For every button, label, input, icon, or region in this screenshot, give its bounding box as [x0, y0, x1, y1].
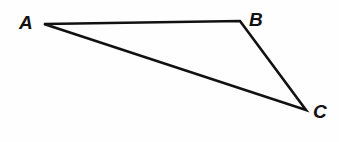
vertex-label-c: C: [313, 102, 327, 121]
geometry-figure: A B C: [0, 0, 339, 142]
triangle-outline: [44, 21, 306, 110]
vertex-label-b: B: [249, 10, 263, 29]
vertex-label-a: A: [19, 13, 33, 32]
triangle-shape: [0, 0, 339, 142]
